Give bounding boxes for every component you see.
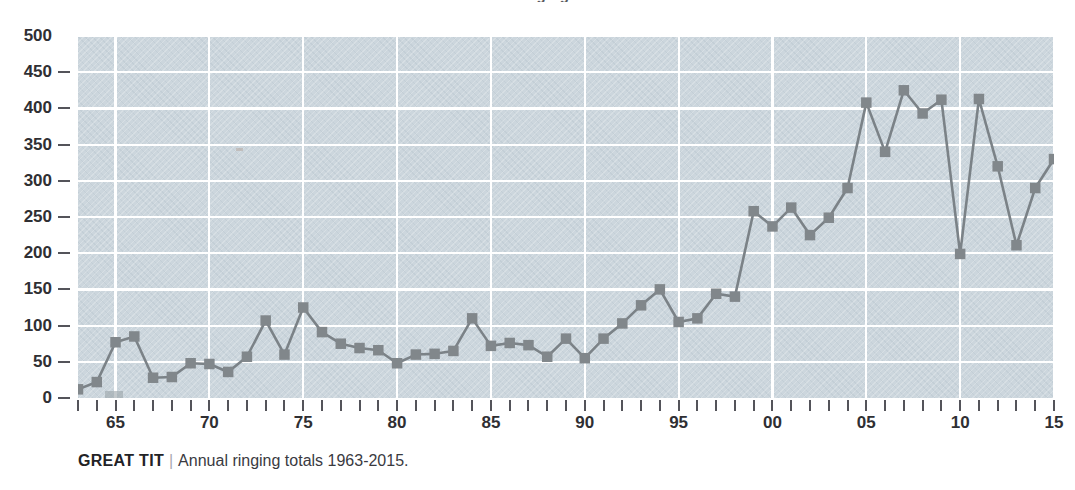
x-axis-tick-mark [265, 400, 267, 411]
data-point-marker [974, 94, 985, 105]
x-axis-tick-label: 80 [388, 413, 407, 433]
y-axis-tick-label: 500 [24, 26, 52, 46]
y-axis: 050100150200250300350400450500 [0, 36, 74, 398]
data-point-marker [260, 315, 271, 326]
data-point-marker [167, 372, 178, 383]
data-point-marker [486, 341, 497, 352]
figure-caption: GREAT TIT|Annual ringing totals 1963-201… [78, 452, 409, 470]
data-point-marker [336, 338, 347, 349]
x-axis-tick-label: 85 [481, 413, 500, 433]
x-axis-tick-mark [584, 400, 586, 411]
y-axis-tick-mark [58, 107, 70, 109]
x-axis-tick-mark [246, 400, 248, 411]
x-axis-tick-mark [828, 400, 830, 411]
x-axis-tick-mark [1034, 400, 1036, 411]
data-point-marker [824, 212, 835, 223]
caption-separator: | [169, 452, 173, 469]
x-axis-tick-label: 15 [1045, 413, 1064, 433]
data-point-marker [78, 384, 83, 395]
y-axis-tick-mark [58, 71, 70, 73]
data-point-marker [223, 367, 234, 378]
y-axis-tick-mark [58, 361, 70, 363]
x-axis-tick-mark [696, 400, 698, 411]
data-point-marker [242, 351, 253, 362]
data-point-marker [730, 291, 741, 302]
x-axis-tick-mark [527, 400, 529, 411]
x-axis-tick-mark [1015, 400, 1017, 411]
data-point-marker [1030, 183, 1041, 194]
x-axis-tick-mark [884, 400, 886, 411]
data-point-marker [917, 108, 928, 119]
data-point-marker [636, 300, 647, 311]
x-axis-tick-mark [509, 400, 511, 411]
data-point-marker [936, 94, 947, 105]
data-point-marker [861, 97, 872, 108]
y-axis-tick-mark [58, 397, 70, 399]
x-axis: 6570758085909500051015 [78, 398, 1054, 444]
y-axis-tick-mark [58, 325, 70, 327]
data-point-marker [1011, 240, 1022, 251]
x-axis-tick-mark [359, 400, 361, 411]
y-axis-tick-label: 200 [24, 243, 52, 263]
data-point-marker [504, 338, 515, 349]
data-point-marker [411, 349, 422, 360]
x-axis-tick-mark [471, 400, 473, 411]
x-axis-tick-mark [208, 400, 210, 411]
x-axis-tick-mark [490, 400, 492, 411]
x-axis-tick-mark [940, 400, 942, 411]
data-point-marker [298, 302, 309, 313]
x-axis-tick-label: 00 [763, 413, 782, 433]
data-point-marker [1049, 154, 1054, 165]
x-axis-tick-mark [115, 400, 117, 411]
y-axis-tick-label: 100 [24, 316, 52, 336]
figure-container: Annual ringing totals 050100150200250300… [0, 0, 1075, 490]
x-axis-tick-mark [753, 400, 755, 411]
data-point-marker [786, 202, 797, 213]
data-point-marker [842, 183, 853, 194]
x-axis-tick-mark [340, 400, 342, 411]
y-axis-tick-mark [58, 144, 70, 146]
x-axis-tick-mark [865, 400, 867, 411]
data-point-marker [148, 372, 159, 383]
plot-area [78, 36, 1054, 398]
data-point-marker [692, 313, 703, 324]
data-point-marker [429, 349, 440, 360]
data-point-marker [373, 345, 384, 356]
y-axis-tick-label: 250 [24, 207, 52, 227]
x-axis-tick-mark [922, 400, 924, 411]
x-axis-tick-mark [678, 400, 680, 411]
data-point-marker [110, 337, 121, 348]
data-point-marker [711, 288, 722, 299]
data-point-marker [354, 343, 365, 354]
x-axis-tick-label: 95 [669, 413, 688, 433]
x-axis-tick-mark [152, 400, 154, 411]
x-axis-tick-mark [734, 400, 736, 411]
x-axis-tick-mark [997, 400, 999, 411]
y-axis-tick-mark [58, 252, 70, 254]
caption-description: Annual ringing totals 1963-2015. [178, 452, 408, 469]
x-axis-tick-mark [959, 400, 961, 411]
x-axis-tick-mark [227, 400, 229, 411]
figure-title-partial: Annual ringing totals [0, 0, 1075, 2]
x-axis-tick-mark [847, 400, 849, 411]
x-axis-tick-mark [903, 400, 905, 411]
data-point-marker [748, 206, 759, 217]
x-axis-tick-mark [415, 400, 417, 411]
data-point-marker [279, 349, 290, 360]
y-axis-tick-label: 300 [24, 171, 52, 191]
data-point-marker [767, 221, 778, 232]
data-point-marker [655, 284, 666, 295]
data-point-marker [467, 313, 478, 324]
y-axis-tick-label: 350 [24, 135, 52, 155]
data-point-marker [617, 318, 628, 329]
data-point-marker [673, 317, 684, 328]
x-axis-tick-mark [396, 400, 398, 411]
y-axis-tick-label: 450 [24, 62, 52, 82]
x-axis-tick-label: 90 [575, 413, 594, 433]
data-point-marker [523, 340, 534, 351]
x-axis-tick-mark [190, 400, 192, 411]
data-point-marker [317, 327, 328, 338]
data-point-marker [448, 346, 459, 357]
x-axis-tick-mark [1053, 400, 1055, 411]
x-axis-tick-mark [809, 400, 811, 411]
